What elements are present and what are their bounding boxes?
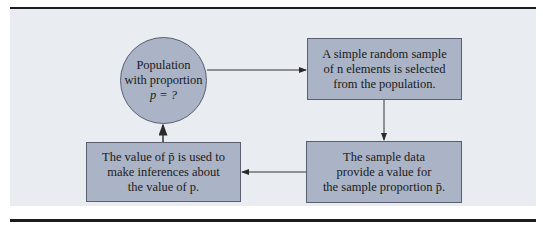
- population-node: Population with proportion p = ?: [120, 37, 207, 124]
- inference-line-3: the value of p.: [102, 180, 225, 195]
- sample-data-node: The sample data provide a value for the …: [306, 141, 462, 203]
- sample-line-2: of n elements is selected: [322, 62, 447, 77]
- bottom-rule: [10, 219, 536, 222]
- inference-line-2: make inferences about: [102, 165, 225, 180]
- data-line-3: the sample proportion p̄.: [323, 180, 445, 195]
- data-line-2: provide a value for: [323, 165, 445, 180]
- inference-node: The value of p̄ is used to make inferenc…: [86, 142, 241, 202]
- inference-line-1: The value of p̄ is used to: [102, 150, 225, 165]
- population-line-1: Population: [124, 58, 202, 73]
- random-sample-node: A simple random sample of n elements is …: [307, 38, 462, 100]
- population-line-2: with proportion: [124, 73, 202, 88]
- data-line-1: The sample data: [323, 150, 445, 165]
- sample-line-1: A simple random sample: [322, 47, 447, 62]
- sample-line-3: from the population.: [322, 77, 447, 92]
- population-line-3: p = ?: [124, 88, 202, 103]
